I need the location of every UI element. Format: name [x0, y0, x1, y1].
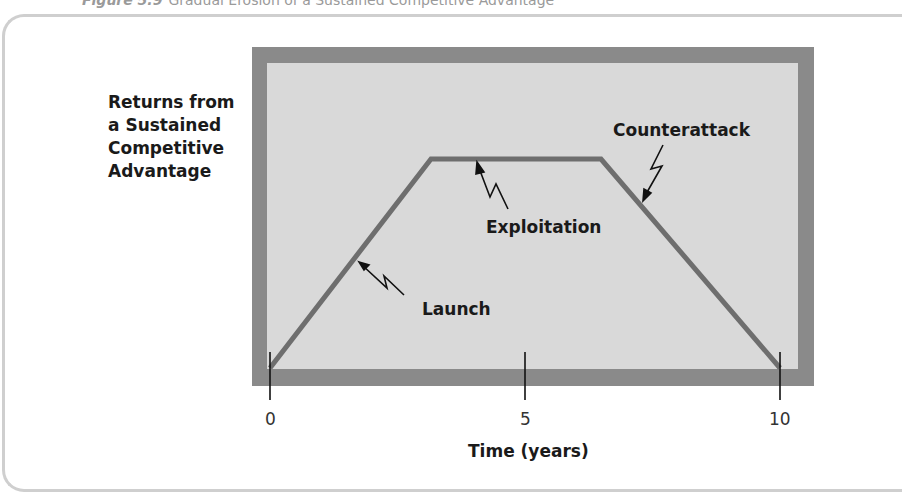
x-tick-label-0: 0: [265, 409, 276, 429]
x-tick-label-10: 10: [769, 409, 791, 429]
x-axis-label: Time (years): [468, 441, 589, 461]
exploitation-label: Exploitation: [486, 217, 601, 237]
plot-area: [267, 63, 798, 369]
launch-label: Launch: [422, 299, 491, 319]
x-tick-label-5: 5: [520, 409, 531, 429]
counterattack-label: Counterattack: [613, 120, 750, 140]
